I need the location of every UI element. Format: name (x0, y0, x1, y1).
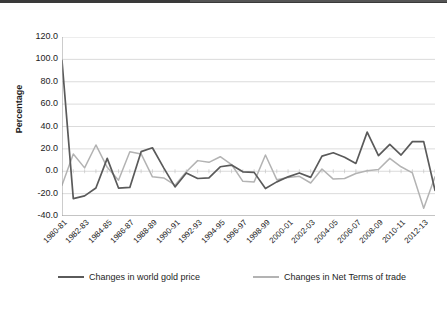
y-tick-label: 100.0 (24, 54, 58, 63)
legend-item[interactable]: Changes in Net Terms of trade (253, 272, 406, 282)
legend-label: Changes in Net Terms of trade (284, 272, 406, 282)
x-tick-label: 1984-85 (86, 218, 113, 245)
y-tick-label: 20.0 (24, 144, 58, 153)
x-tick-label: 2000-01 (267, 218, 294, 245)
y-tick-label: 80.0 (24, 77, 58, 86)
y-tick-label: 60.0 (24, 99, 58, 108)
y-axis-tick-labels: 120.0100.080.060.040.020.00.0-20.0-40.0 (20, 0, 58, 310)
x-tick-label: 1988-89 (132, 218, 159, 245)
x-tick-label: 2012-13 (403, 218, 430, 245)
y-tick-label: 120.0 (24, 32, 58, 41)
x-tick-label: 1982-83 (64, 218, 91, 245)
x-tick-label: 1992-93 (177, 218, 204, 245)
chart-container: Percentage 120.0100.080.060.040.020.00.0… (0, 0, 447, 310)
x-axis-labels: 1980-811982-831984-851986-871988-891990-… (62, 218, 435, 278)
x-tick-label: 1986-87 (109, 218, 136, 245)
legend-swatch (58, 276, 84, 278)
data-series-group (62, 60, 435, 208)
y-tick-label: 40.0 (24, 122, 58, 131)
legend-swatch (253, 276, 279, 278)
y-tick-label: -40.0 (24, 211, 58, 220)
top-divider-bar-right (190, 0, 447, 2)
x-tick-label: 2008-09 (358, 218, 385, 245)
chart-legend: Changes in world gold priceChanges in Ne… (0, 272, 447, 292)
x-tick-label: 1994-95 (199, 218, 226, 245)
x-tick-label: 2004-05 (313, 218, 340, 245)
x-tick-label: 1996-97 (222, 218, 249, 245)
x-tick-label: 2010-11 (381, 218, 408, 245)
legend-item[interactable]: Changes in world gold price (58, 272, 200, 282)
x-tick-label: 2006-07 (335, 218, 362, 245)
x-tick-label: 2002-03 (290, 218, 317, 245)
y-tick-label: -20.0 (24, 189, 58, 198)
plot-area (62, 37, 435, 216)
x-tick-label: 1990-91 (154, 218, 181, 245)
legend-label: Changes in world gold price (89, 272, 200, 282)
series-line (62, 60, 435, 198)
x-tick-label: 1998-99 (245, 218, 272, 245)
y-tick-label: 0.0 (24, 166, 58, 175)
gridlines (62, 37, 435, 216)
